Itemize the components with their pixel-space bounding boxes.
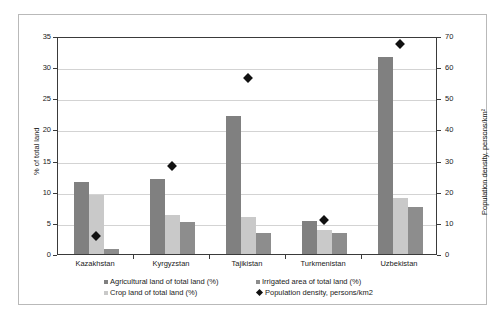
bar-crop [393,198,408,254]
y-axis-right-tick-label: 20 [445,189,471,197]
legend-item[interactable]: Agricultural land of total land (%) [104,277,218,286]
legend-item[interactable]: Population density, persons/km2 [256,288,373,297]
legend-item-label: Irrigated area of total land (%) [262,277,361,286]
bar-irrigated [408,207,423,254]
x-axis-tick-mark [133,255,134,259]
y-axis-left-tick-label: 25 [25,95,51,103]
bar-irrigated [332,233,347,254]
legend-item-label: Crop land of total land (%) [110,288,197,297]
population-density-marker [243,73,253,83]
y-axis-right-tick-label: 10 [445,220,471,228]
legend-swatch-icon [256,280,260,284]
bar-irrigated [104,249,119,254]
y-axis-right-tick-label: 60 [445,64,471,72]
y-axis-left-tick-label: 0 [25,251,51,259]
y-axis-right-tick-mark [437,255,441,256]
y-axis-left-tick-label: 5 [25,220,51,228]
y-axis-right-tick-mark [437,37,441,38]
y-axis-left-tick-label: 30 [25,64,51,72]
bar-agricultural [378,57,393,254]
bar-irrigated [180,222,195,254]
y-axis-left-title: % of total land [32,127,41,175]
legend-item-label: Population density, persons/km2 [265,288,373,297]
bar-agricultural [302,221,317,254]
bar-agricultural [74,182,89,254]
legend-item-label: Agricultural land of total land (%) [110,277,218,286]
y-axis-right-tick-mark [437,68,441,69]
y-axis-right-tick-mark [437,224,441,225]
legend-item[interactable]: Crop land of total land (%) [104,288,197,297]
y-axis-right-tick-label: 40 [445,126,471,134]
chart-figure: % of total land Population density, pers… [0,0,501,326]
y-axis-right-tick-label: 70 [445,33,471,41]
y-axis-left-tick-label: 10 [25,189,51,197]
bar-crop [165,215,180,254]
x-axis-tick-mark [209,255,210,259]
legend-item[interactable]: Irrigated area of total land (%) [256,277,361,286]
legend-swatch-icon [104,280,108,284]
bar-irrigated [256,233,271,254]
x-axis-tick-mark [361,255,362,259]
bar-agricultural [226,116,241,254]
y-axis-right-tick-mark [437,193,441,194]
population-density-marker [319,215,329,225]
chart-legend: Agricultural land of total land (%)Crop … [104,277,434,301]
y-axis-right-tick-label: 0 [445,251,471,259]
y-axis-right-tick-label: 50 [445,95,471,103]
population-density-marker [395,39,405,49]
y-axis-left-tick-label: 20 [25,126,51,134]
plot-area [57,37,437,255]
y-axis-left-tick-label: 35 [25,33,51,41]
y-axis-right-tick-label: 30 [445,158,471,166]
bar-agricultural [150,179,165,254]
x-axis-tick-mark [285,255,286,259]
bar-crop [89,195,104,254]
y-axis-right-tick-mark [437,162,441,163]
legend-diamond-icon [256,289,263,296]
bar-crop [317,230,332,254]
y-axis-left-tick-label: 15 [25,158,51,166]
y-axis-right-tick-mark [437,130,441,131]
x-axis-category-label: Uzbekistan [354,259,444,268]
legend-swatch-icon [104,291,108,295]
y-axis-right-tick-mark [437,99,441,100]
bar-crop [241,217,256,254]
y-axis-right-title: Population density, persons/km² [480,109,489,215]
y-axis-left-tick-mark [53,255,57,256]
